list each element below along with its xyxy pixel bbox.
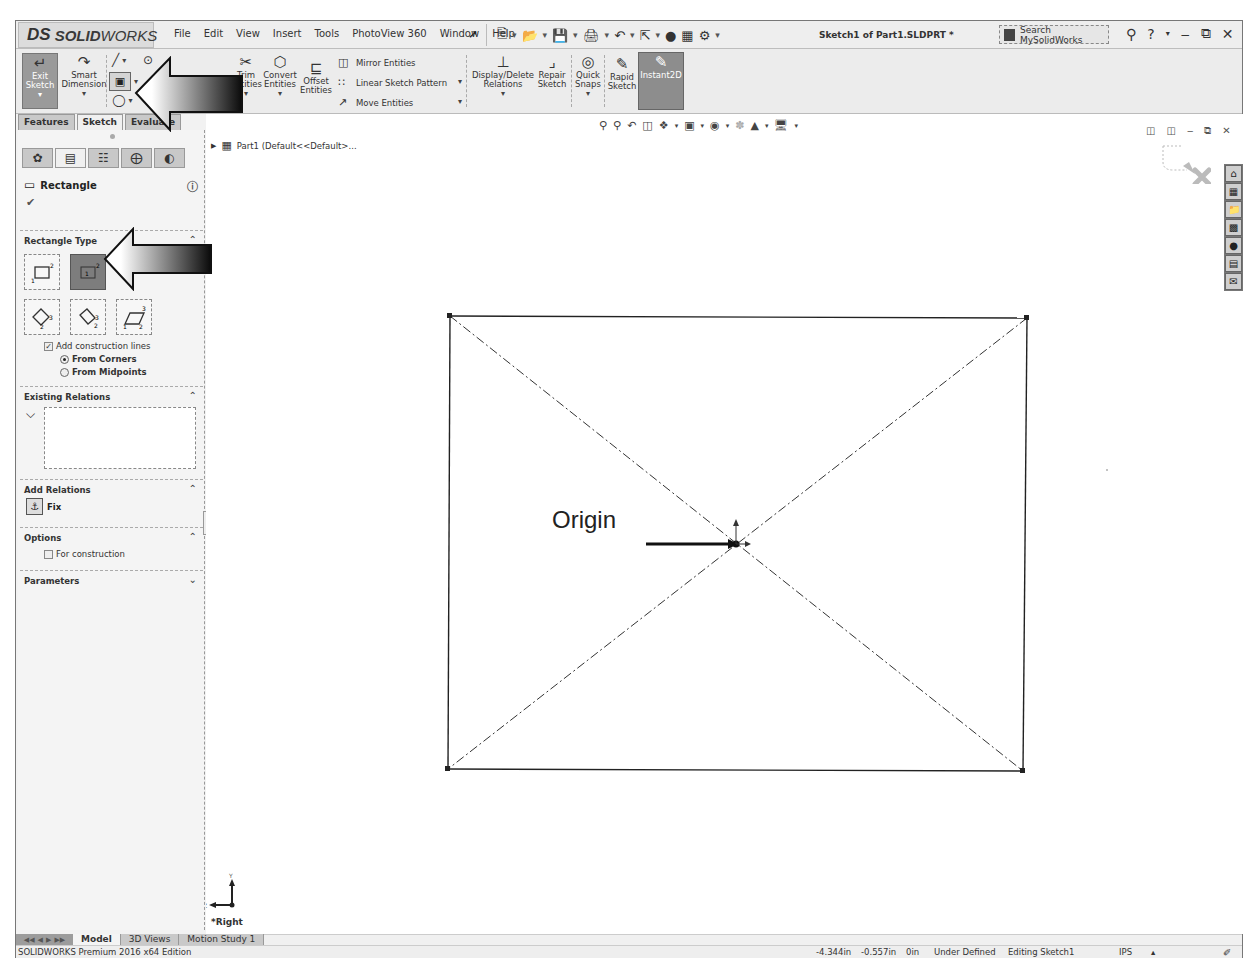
tab-motion-study-1[interactable]: Motion Study 1 (179, 934, 264, 945)
dimxpert-manager-tab-icon[interactable]: ⨁ (121, 148, 152, 168)
options-dropdown-icon[interactable]: ▾ (715, 30, 720, 40)
next-tab-icon[interactable]: ▶ (46, 936, 51, 944)
ok-check-icon[interactable]: ✔ (26, 196, 35, 209)
configuration-manager-tab-icon[interactable]: ☷ (88, 148, 119, 168)
menu-file[interactable]: File (174, 28, 191, 39)
pattern-dropdown-icon[interactable]: ▾ (458, 77, 462, 86)
new-dropdown-icon[interactable]: ▾ (512, 30, 517, 40)
file-properties-icon[interactable]: ▦ (681, 28, 693, 43)
property-manager-tab-icon[interactable]: ▤ (55, 148, 86, 168)
help-dropdown-icon[interactable]: ▾ (1166, 29, 1170, 38)
menu-edit[interactable]: Edit (204, 28, 223, 39)
relations-dropdown-icon[interactable]: ▾ (501, 89, 505, 98)
select-dropdown-icon[interactable]: ▾ (655, 30, 660, 40)
collapse-caret-icon[interactable]: ⌃ (189, 531, 197, 542)
instant2d-button[interactable]: ✎ Instant2D (638, 52, 684, 110)
close-icon[interactable]: ✕ (1222, 26, 1234, 42)
trim-dropdown-icon[interactable]: ▾ (244, 89, 248, 98)
move-entities-button[interactable]: ↗Move Entities (338, 96, 413, 109)
menu-insert[interactable]: Insert (273, 28, 302, 39)
new-document-icon[interactable]: 🗎 (497, 24, 507, 46)
menu-photoview[interactable]: PhotoView 360 (352, 28, 427, 39)
pin-menu-icon[interactable]: ➚ (468, 27, 478, 41)
line-tool[interactable]: ╱▾ (112, 53, 126, 67)
line-dropdown-icon[interactable]: ▾ (122, 56, 126, 65)
3-point-corner-rectangle-button[interactable]: 32 (24, 299, 60, 335)
menu-tools[interactable]: Tools (315, 28, 340, 39)
add-construction-lines-checkbox[interactable]: ✓ Add construction lines (44, 341, 151, 351)
save-icon[interactable]: 💾 (552, 28, 568, 43)
center-rectangle-button[interactable]: 12 (70, 254, 106, 290)
print-icon[interactable]: 🖨 (583, 28, 600, 43)
feature-manager-tab-icon[interactable]: ✿ (22, 148, 53, 168)
rectangle-tool-button[interactable]: ▣ (109, 72, 131, 91)
mirror-entities-button[interactable]: ◫Mirror Entities (338, 56, 416, 69)
display-delete-relations-button[interactable]: ⊥ Display/Delete Relations ▾ (471, 53, 535, 98)
last-tab-icon[interactable]: ▶▶ (54, 936, 65, 944)
undo-icon[interactable]: ↶ (614, 28, 625, 43)
first-tab-icon[interactable]: ◀◀ (24, 936, 35, 944)
3-point-center-rectangle-button[interactable]: 32 (70, 299, 106, 335)
menu-bar: File Edit View Insert Tools PhotoView 36… (174, 28, 515, 39)
rebuild-icon[interactable]: ● (665, 28, 676, 43)
exit-sketch-button[interactable]: ↵ Exit Sketch ▾ (22, 53, 58, 109)
parallelogram-button[interactable]: 312 (116, 299, 152, 335)
solidworks-logo[interactable]: DS SOLIDWORKS (18, 22, 154, 48)
menu-view[interactable]: View (236, 28, 260, 39)
move-dropdown-icon[interactable]: ▾ (458, 97, 462, 106)
quick-snaps-button[interactable]: ◎ Quick Snaps ▾ (573, 53, 603, 98)
tab-features[interactable]: Features (18, 114, 75, 130)
save-dropdown-icon[interactable]: ▾ (573, 30, 578, 40)
collapse-caret-icon[interactable]: ⌃ (189, 483, 197, 494)
unit-system-selector[interactable]: IPS (1119, 947, 1132, 957)
help-icon[interactable]: ⓘ (187, 178, 198, 194)
search-icon[interactable]: ⚲ (1126, 26, 1136, 42)
display-delete-relations-label: Display/Delete Relations (472, 71, 534, 89)
smart-dimension-dropdown-icon[interactable]: ▾ (82, 89, 86, 98)
collapse-caret-icon[interactable]: ⌃ (189, 390, 197, 401)
smart-dimension-button[interactable]: ↷ Smart Dimension ▾ (62, 53, 106, 98)
print-dropdown-icon[interactable]: ▾ (605, 30, 610, 40)
fix-relation-button[interactable]: ⚓ (26, 498, 43, 515)
help-icon[interactable]: ? (1147, 26, 1154, 42)
corner-rectangle-button[interactable]: 21 (24, 254, 60, 290)
linear-sketch-pattern-button[interactable]: ∷Linear Sketch Pattern (338, 76, 447, 89)
options-gear-icon[interactable]: ⚙ (699, 28, 711, 43)
for-construction-checkbox[interactable]: For construction (44, 549, 125, 559)
tab-model[interactable]: Model (73, 934, 121, 945)
center-rectangle-icon: 12 (76, 261, 100, 283)
tab-sketch[interactable]: Sketch (77, 114, 123, 130)
existing-relations-list[interactable] (44, 407, 196, 469)
parameters-section[interactable]: Parameters ⌄ (20, 570, 203, 590)
quick-snaps-dropdown-icon[interactable]: ▾ (586, 89, 590, 98)
quick-tips-icon[interactable]: ✐ (1223, 947, 1231, 958)
open-icon[interactable]: 📂 (522, 28, 538, 43)
display-manager-tab-icon[interactable]: ◐ (154, 148, 185, 168)
line-icon: ╱ (112, 53, 119, 67)
search-mysolidworks-input[interactable]: Search MySolidWorks (999, 25, 1109, 44)
panel-collapse-handle[interactable] (110, 134, 115, 139)
convert-entities-button[interactable]: ⬡ Convert Entities ▾ (263, 53, 297, 98)
origin-symbol[interactable] (646, 519, 751, 549)
sketch-canvas[interactable]: Y Z (206, 114, 1243, 934)
radio-from-midpoints[interactable]: From Midpoints (60, 367, 147, 377)
graphics-area[interactable]: ▶ ▦ Part1 (Default<<Default>... ⚲ ⚲ ↶ ◫ … (206, 114, 1243, 934)
prev-tab-icon[interactable]: ◀ (38, 936, 43, 944)
undo-dropdown-icon[interactable]: ▾ (630, 30, 635, 40)
repair-sketch-button[interactable]: ⌟ Repair Sketch (535, 53, 569, 89)
tab-3d-views[interactable]: 3D Views (121, 934, 180, 945)
slot-dropdown-icon[interactable]: ▾ (128, 96, 132, 105)
offset-entities-button[interactable]: ⊑ Offset Entities (299, 59, 333, 95)
minimize-icon[interactable]: ‒ (1181, 26, 1190, 42)
restore-icon[interactable]: ⧉ (1201, 25, 1211, 42)
slot-tool[interactable]: ◯▾ (112, 93, 132, 107)
select-icon[interactable]: ⇱ (640, 28, 651, 43)
radio-from-corners[interactable]: From Corners (60, 354, 136, 364)
units-dropdown-icon[interactable]: ▴ (1151, 947, 1155, 957)
convert-dropdown-icon[interactable]: ▾ (278, 89, 282, 98)
exit-sketch-dropdown-icon[interactable]: ▾ (38, 90, 42, 99)
rapid-sketch-button[interactable]: ✎ Rapid Sketch (606, 55, 638, 91)
tab-scroll-arrows[interactable]: ◀◀ ◀ ▶ ▶▶ (16, 934, 73, 945)
expand-caret-icon[interactable]: ⌄ (189, 574, 197, 585)
open-dropdown-icon[interactable]: ▾ (543, 30, 548, 40)
